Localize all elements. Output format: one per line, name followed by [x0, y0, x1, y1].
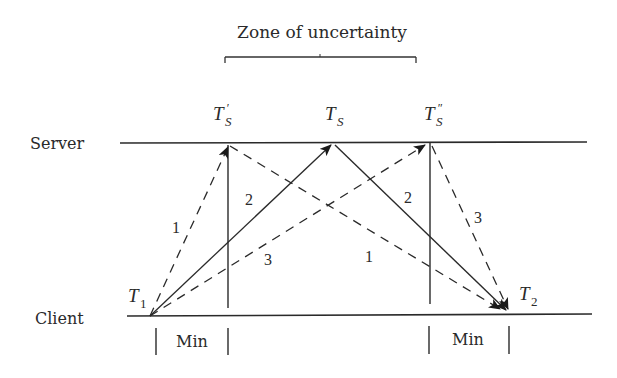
svg-text:S: S [337, 114, 344, 129]
label-reply-2: 2 [404, 189, 412, 206]
client-timeline [127, 314, 592, 316]
label-t2: T 2 [519, 283, 538, 309]
svg-text:1: 1 [140, 296, 147, 311]
svg-text:′: ′ [226, 101, 229, 115]
label-ts-prime: T ′ S [213, 101, 232, 129]
svg-text:S: S [225, 114, 232, 129]
label-ts-double-prime: T ″ S [424, 101, 443, 129]
server-label: Server [30, 134, 85, 153]
server-timeline [120, 142, 587, 143]
label-reply-3: 3 [474, 209, 482, 226]
label-request-3: 3 [264, 251, 272, 268]
svg-text:Min: Min [452, 330, 484, 349]
label-reply-1: 1 [365, 248, 373, 265]
zone-title: Zone of uncertainty [237, 22, 407, 42]
label-t1: T 1 [128, 285, 147, 311]
uncertainty-diagram: Zone of uncertainty T ′ S T S T ″ S Serv… [0, 0, 617, 378]
message-request-3 [150, 145, 425, 316]
label-ts: T S [325, 103, 344, 129]
svg-text:Min: Min [176, 332, 208, 351]
client-label: Client [35, 309, 84, 328]
svg-text:T: T [325, 103, 337, 124]
svg-text:T: T [128, 285, 140, 306]
message-reply-2 [335, 145, 506, 310]
svg-text:T: T [424, 103, 436, 124]
message-request-1 [150, 147, 228, 316]
svg-text:2: 2 [531, 294, 538, 309]
svg-text:T: T [519, 283, 531, 304]
svg-text:T: T [213, 103, 225, 124]
min-interval-left: Min [156, 328, 228, 355]
label-request-1: 1 [172, 219, 180, 236]
message-reply-1 [230, 146, 500, 309]
min-interval-right: Min [429, 326, 509, 354]
label-request-2: 2 [245, 191, 253, 208]
zone-bracket [225, 54, 416, 63]
svg-text:S: S [436, 114, 443, 129]
svg-text:″: ″ [437, 101, 443, 115]
message-reply-3 [432, 146, 508, 309]
